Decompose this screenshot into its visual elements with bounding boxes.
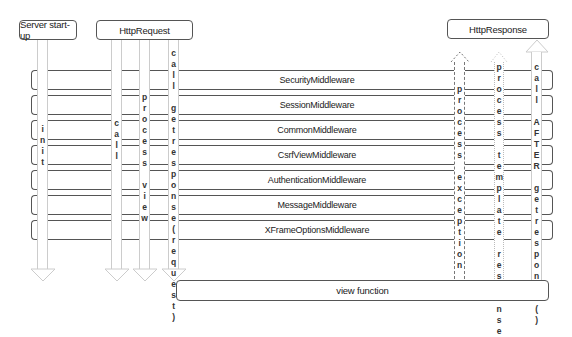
middleware-row-session: SessionMiddleware	[47, 95, 547, 115]
init-label: init	[37, 124, 48, 168]
down-arrow-icon	[104, 268, 130, 282]
middleware-row-csrf: CsrfViewMiddleware	[47, 145, 547, 165]
middleware-row-authentication: AuthenticationMiddleware	[47, 170, 547, 190]
process-view-label: process view	[139, 92, 150, 224]
right-bracket	[545, 70, 553, 90]
right-bracket	[545, 220, 553, 240]
middleware-label: XFrameOptionsMiddleware	[197, 220, 437, 240]
middleware-label: SessionMiddleware	[197, 95, 437, 115]
middleware-row-message: MessageMiddleware	[47, 195, 547, 215]
http-response-box: HttpResponse	[447, 19, 549, 39]
view-function-box: view function	[176, 280, 549, 301]
right-bracket	[545, 195, 553, 215]
up-arrow-icon	[525, 39, 549, 53]
right-bracket	[545, 145, 553, 165]
middleware-row-xframeoptions: XFrameOptionsMiddleware	[47, 220, 547, 240]
middleware-row-security: SecurityMiddleware	[47, 70, 547, 90]
right-bracket	[545, 95, 553, 115]
server-startup-box: Server start-up	[19, 20, 77, 40]
right-bracket	[545, 120, 553, 140]
call-label: call	[111, 118, 122, 162]
right-bracket	[545, 170, 553, 190]
middleware-label: AuthenticationMiddleware	[197, 170, 437, 190]
middleware-label: MessageMiddleware	[197, 195, 437, 215]
middleware-label: CommonMiddleware	[197, 120, 437, 140]
middleware-label: CsrfViewMiddleware	[197, 145, 437, 165]
http-request-box: HttpRequest	[96, 20, 193, 40]
middleware-label: SecurityMiddleware	[197, 70, 437, 90]
middleware-row-common: CommonMiddleware	[47, 120, 547, 140]
down-arrow-icon	[132, 268, 158, 282]
down-arrow-icon	[30, 268, 56, 282]
process-exception-label: process exception	[454, 84, 465, 271]
